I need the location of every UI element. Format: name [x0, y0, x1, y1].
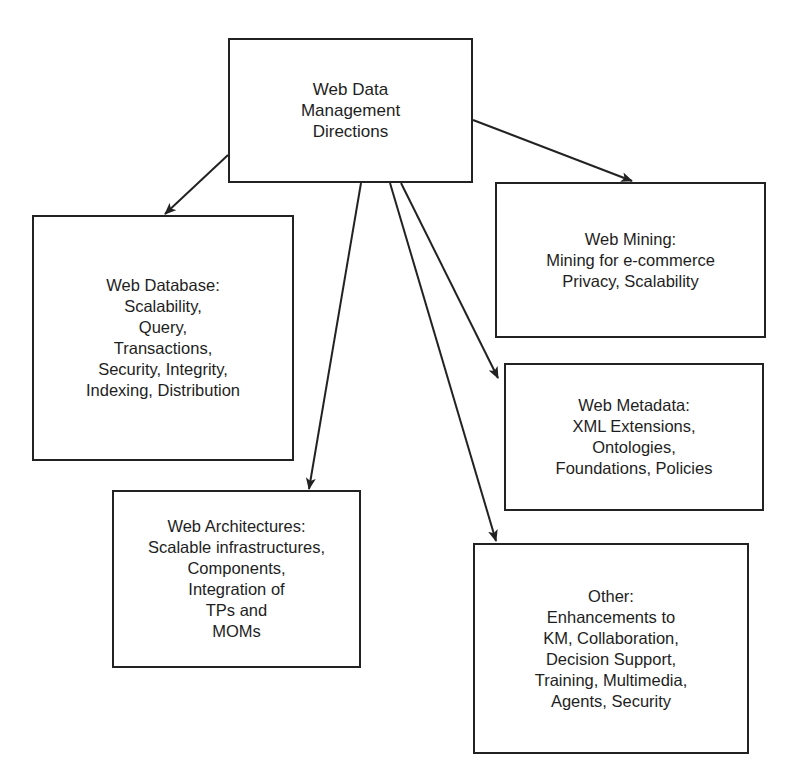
node-text-line: Components, [187, 558, 285, 579]
node-title: Other: [588, 586, 634, 607]
arrow-root-to-web-database [165, 155, 228, 214]
node-text-line: Ontologies, [592, 437, 675, 458]
node-text-line: XML Extensions, [572, 416, 695, 437]
node-title: Web Database: [106, 275, 219, 296]
arrow-root-to-web-mining [473, 120, 632, 181]
node-web-architectures: Web Architectures: Scalable infrastructu… [112, 490, 361, 668]
node-text-line: Decision Support, [546, 649, 676, 670]
node-text-line: Query, [139, 317, 187, 338]
node-web-mining: Web Mining: Mining for e-commerce Privac… [495, 182, 766, 338]
node-text-line: Directions [313, 121, 389, 142]
node-text-line: Agents, Security [551, 691, 671, 712]
node-text-line: Scalability, [124, 296, 202, 317]
diagram-canvas: Web Data Management Directions Web Datab… [0, 0, 790, 779]
node-text-line: Indexing, Distribution [86, 380, 240, 401]
node-text-line: Foundations, Policies [556, 458, 713, 479]
arrow-root-to-other [390, 183, 496, 541]
node-text-line: TPs and [206, 600, 267, 621]
node-text-line: Enhancements to [547, 607, 675, 628]
node-text-line: Management [301, 100, 400, 121]
node-text-line: Training, Multimedia, [535, 670, 688, 691]
node-web-metadata: Web Metadata: XML Extensions, Ontologies… [504, 363, 764, 511]
node-text-line: MOMs [212, 621, 261, 642]
node-text-line: Integration of [188, 579, 284, 600]
node-title: Web Mining: [585, 229, 676, 250]
node-text-line: Mining for e-commerce [546, 250, 715, 271]
arrow-root-to-web-metadata [401, 183, 498, 378]
node-text-line: KM, Collaboration, [543, 628, 679, 649]
node-text-line: Privacy, Scalability [562, 271, 698, 292]
arrow-root-to-web-architectures [309, 183, 361, 489]
root-node-web-data-management-directions: Web Data Management Directions [228, 38, 473, 183]
node-web-database: Web Database: Scalability, Query, Transa… [32, 215, 294, 461]
node-text-line: Web Data [313, 79, 388, 100]
node-other: Other: Enhancements to KM, Collaboration… [473, 543, 749, 754]
node-title: Web Metadata: [578, 395, 690, 416]
node-title: Web Architectures: [167, 516, 305, 537]
node-text-line: Transactions, [114, 338, 212, 359]
node-text-line: Security, Integrity, [98, 359, 228, 380]
node-text-line: Scalable infrastructures, [148, 537, 325, 558]
